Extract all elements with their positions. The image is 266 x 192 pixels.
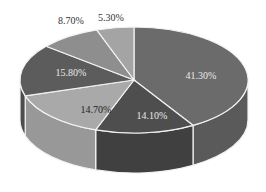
pie-chart-svg: 41.30%14.10%14.70%15.80%8.70%5.30%: [0, 0, 266, 192]
slice-label-0: 41.30%: [186, 70, 217, 81]
slice-label-4: 8.70%: [58, 15, 84, 26]
slice-label-3: 15.80%: [56, 67, 87, 78]
pie-chart: 41.30%14.10%14.70%15.80%8.70%5.30%: [0, 0, 266, 192]
slice-label-2: 14.70%: [81, 104, 112, 115]
slice-label-5: 5.30%: [98, 12, 124, 23]
slice-label-1: 14.10%: [137, 110, 168, 121]
